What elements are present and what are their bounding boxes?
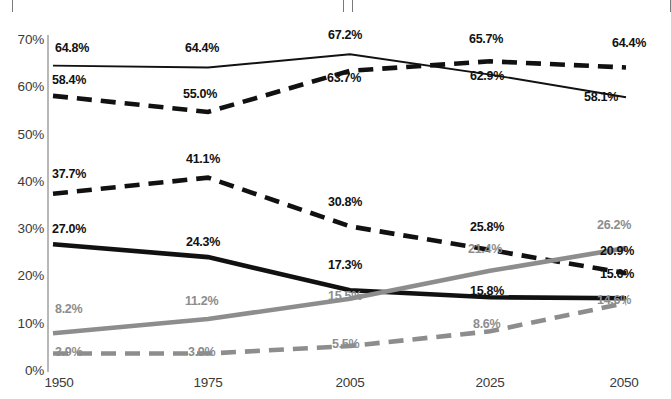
point-label-s2-i0: 37.7% [52,168,86,181]
line-chart: 0%10%20%30%40%50%60%70% 1950197520052025… [0,0,671,399]
point-label-s1-i3: 65.7% [469,33,503,46]
point-label-s2-i1: 41.1% [186,153,220,166]
screenshot-root: 0%10%20%30%40%50%60%70% 1950197520052025… [0,0,671,399]
point-label-s5-i3: 8.6% [473,318,500,331]
point-label-s2-i4: 20.9% [600,245,634,258]
point-label-s0-i0: 64.8% [55,42,89,55]
point-label-s1-i4: 64.4% [612,37,646,50]
point-label-s4-i4: 26.2% [597,219,631,232]
point-label-s0-i1: 64.4% [185,42,219,55]
point-label-s1-i1: 55.0% [183,88,217,101]
point-label-s4-i2: 15.5% [328,290,362,303]
point-label-s4-i1: 11.2% [185,295,218,308]
point-label-s4-i0: 8.2% [55,303,82,316]
point-label-s2-i3: 25.8% [470,221,504,234]
y-tick-30: 30% [2,221,44,236]
point-label-s2-i2: 30.8% [328,196,362,209]
point-label-s0-i3: 62.9% [470,70,504,83]
point-label-s0-i4: 58.1% [584,91,618,104]
y-tick-40: 40% [2,174,44,189]
point-label-s1-i2: 63.7% [327,72,361,85]
point-label-s5-i1: 3.9% [188,346,215,359]
y-tick-50: 50% [2,127,44,142]
y-tick-70: 70% [2,32,44,47]
y-tick-10: 10% [2,316,44,331]
point-label-s5-i0: 3.9% [55,346,82,359]
point-label-s3-i3: 15.8% [470,285,504,298]
y-tick-20: 20% [2,268,44,283]
x-tick-2050: 2050 [589,375,659,390]
x-tick-1950: 1950 [24,375,94,390]
point-label-s1-i0: 58.4% [52,74,86,87]
point-label-s4-i3: 21.4% [468,243,502,256]
point-label-s5-i2: 5.5% [332,338,359,351]
x-tick-1975: 1975 [173,375,243,390]
y-tick-60: 60% [2,79,44,94]
point-label-s0-i2: 67.2% [328,29,362,42]
x-tick-2025: 2025 [455,375,525,390]
point-label-s5-i4: 14.6% [597,294,631,307]
point-label-s3-i1: 24.3% [186,236,220,249]
point-label-s3-i2: 17.3% [328,259,362,272]
point-label-s3-i4: 15.6% [600,268,634,281]
x-tick-2005: 2005 [315,375,385,390]
point-label-s3-i0: 27.0% [52,223,86,236]
series-line-series-2-thick-dashed-black [53,61,626,112]
